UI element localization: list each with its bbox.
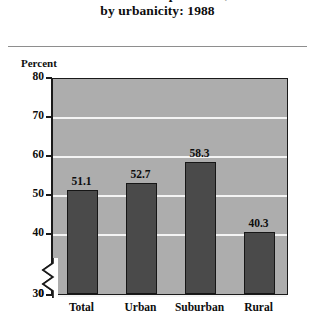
title-divider xyxy=(8,46,307,47)
bar-value-label: 51.1 xyxy=(57,175,107,187)
x-tick-rural: Rural xyxy=(224,301,294,313)
y-tick-label: 60 xyxy=(18,148,44,160)
bar-suburban[interactable] xyxy=(185,162,216,294)
y-tick-label: 40 xyxy=(18,226,44,238)
bar-value-label: 40.3 xyxy=(234,217,284,229)
bar-value-label: 58.3 xyxy=(175,147,225,159)
y-tick-label: 50 xyxy=(18,187,44,199)
title-line-2: by urbanicity: 1988 xyxy=(0,3,315,19)
y-axis-label: Percent xyxy=(21,57,57,69)
bar-total[interactable] xyxy=(67,190,98,294)
chart-title: who attended preschool, by urbanicity: 1… xyxy=(0,0,315,18)
y-tick-label: 80 xyxy=(18,70,44,82)
bar-value-label: 52.7 xyxy=(116,168,166,180)
gridline xyxy=(53,295,287,297)
y-tick-label: 70 xyxy=(18,109,44,121)
axis-break-icon xyxy=(40,258,58,298)
bar-rural[interactable] xyxy=(244,232,275,294)
bar-urban[interactable] xyxy=(126,183,157,294)
